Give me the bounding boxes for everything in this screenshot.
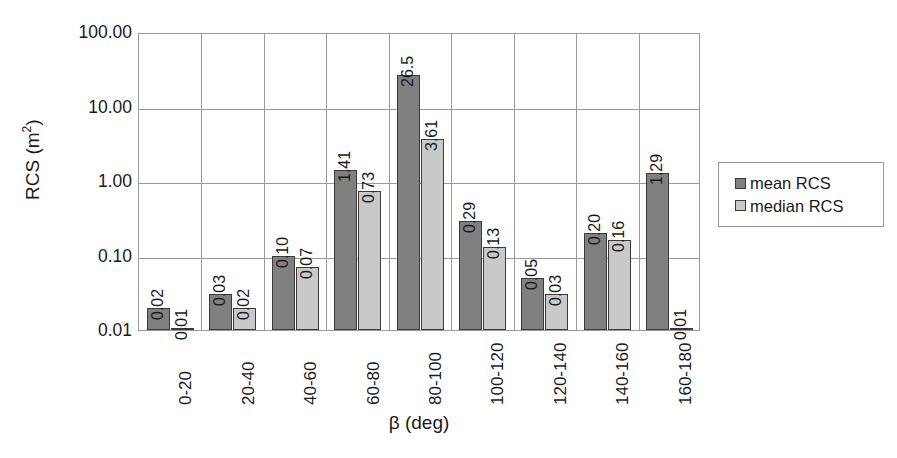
bar-value-label: 1.41 [337, 151, 353, 182]
y-axis-tick-label: 1.00 [36, 173, 132, 191]
bar-mean [334, 170, 357, 330]
bar-median [421, 139, 444, 330]
x-axis-tick-label: 80-100 [427, 352, 444, 405]
x-axis-tick-label: 100-120 [489, 343, 506, 405]
y-axis-tick-label: 100.00 [36, 24, 132, 42]
category-divider [451, 34, 452, 330]
bar-median [358, 191, 381, 330]
bar-value-label: 0.73 [361, 172, 377, 203]
legend-label: median RCS [750, 198, 844, 215]
category-divider [576, 34, 577, 330]
x-axis-tick-label: 120-140 [552, 343, 569, 405]
bar-value-label: 1.29 [649, 154, 665, 185]
bar-median [608, 240, 631, 330]
bar-mean [459, 221, 482, 330]
bar-mean [584, 233, 607, 330]
bar-value-label: 0.03 [212, 275, 228, 306]
bar-mean [397, 75, 420, 330]
bar-value-label: 26.5 [400, 56, 416, 87]
y-axis-tick-labels: 100.0010.001.000.100.01 [36, 0, 132, 458]
y-axis-title-superscript: 2 [20, 126, 34, 133]
category-divider [514, 34, 515, 330]
category-divider [389, 34, 390, 330]
bar-chart: RCS (m2) 100.0010.001.000.100.01 0.020.0… [0, 0, 897, 458]
bar-value-label: 0.03 [548, 275, 564, 306]
x-axis-tick-label: 20-40 [240, 362, 257, 405]
x-axis-title: β (deg) [138, 412, 700, 434]
bar-value-label: 0.02 [150, 288, 166, 319]
y-axis-tick-label: 0.01 [36, 322, 132, 340]
bar-value-label: 0.29 [462, 202, 478, 233]
bar-value-label: 0.16 [611, 221, 627, 252]
x-axis-tick-label: 160-180 [677, 343, 694, 405]
x-axis-tick-label: 140-160 [614, 343, 631, 405]
bar-value-label: 0.10 [275, 236, 291, 267]
legend-item: mean RCS [719, 172, 883, 195]
bar-value-label: 0.07 [299, 248, 315, 279]
x-axis-tick-label: 60-80 [365, 362, 382, 405]
category-divider [201, 34, 202, 330]
chart-legend: mean RCSmedian RCS [718, 162, 884, 227]
category-divider [326, 34, 327, 330]
bar-value-label: 3.61 [424, 120, 440, 151]
x-axis-tick-label: 0-20 [177, 371, 194, 405]
legend-item: median RCS [719, 195, 883, 218]
bar-value-label: 0.20 [587, 214, 603, 245]
plot-area: 0.020.010.030.020.100.071.410.7326.53.61… [138, 33, 700, 331]
category-divider [264, 34, 265, 330]
bar-value-label: 0.02 [236, 288, 252, 319]
bar-median [483, 247, 506, 330]
bar-value-label: 0.13 [486, 228, 502, 259]
category-divider [639, 34, 640, 330]
y-axis-tick-label: 0.10 [36, 248, 132, 266]
legend-label: mean RCS [750, 175, 831, 192]
y-axis-tick-label: 10.00 [36, 99, 132, 117]
legend-swatch-median [735, 200, 746, 211]
legend-swatch-mean [735, 178, 746, 189]
bar-value-label: 0.05 [524, 259, 540, 290]
bar-mean [646, 173, 669, 330]
x-axis-tick-label: 40-60 [302, 362, 319, 405]
